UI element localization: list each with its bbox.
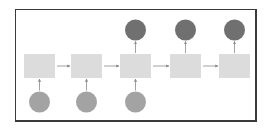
rnn-diagram <box>0 0 272 132</box>
hidden-state-box <box>120 54 151 78</box>
input-node <box>29 92 50 113</box>
hidden-state-box <box>24 54 55 78</box>
output-node <box>224 20 245 41</box>
hidden-state-box <box>71 54 102 78</box>
input-node <box>76 92 97 113</box>
output-node <box>175 20 196 41</box>
input-node <box>125 92 146 113</box>
output-node <box>125 20 146 41</box>
hidden-state-box <box>170 54 201 78</box>
hidden-state-box <box>219 54 250 78</box>
